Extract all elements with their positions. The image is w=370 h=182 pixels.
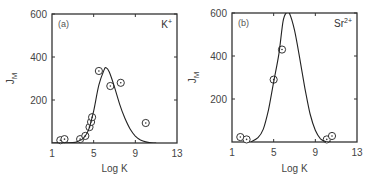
data-point-marker <box>142 119 149 126</box>
x-axis-title: Log K <box>101 163 127 174</box>
data-point-marker <box>95 67 102 74</box>
data-point-marker <box>243 136 250 143</box>
x-tick-label: 5 <box>91 148 97 159</box>
ion-label: K+ <box>161 18 172 30</box>
x-tick-label: 1 <box>229 147 235 158</box>
y-axis-title: JM <box>5 72 19 84</box>
x-tick-label: 1 <box>49 148 55 159</box>
panel-label: (b) <box>238 18 249 28</box>
fit-curve <box>251 11 331 142</box>
x-tick-label: 9 <box>313 147 319 158</box>
chart-panel-b: 15913200400600Log KJM(b)Sr2+ <box>187 8 363 174</box>
y-tick-label: 600 <box>210 8 227 19</box>
plot-frame <box>52 14 177 143</box>
chart-panel-a: 15913200400600Log KJM(a)K+ <box>5 9 183 174</box>
fit-curve <box>52 68 156 143</box>
chart-figure: 15913200400600Log KJM(a)K+15913200400600… <box>0 0 370 182</box>
panel-label: (a) <box>58 19 69 29</box>
ion-label: Sr2+ <box>334 17 352 29</box>
x-tick-label: 13 <box>171 148 183 159</box>
data-point-marker <box>328 132 335 139</box>
x-axis-title: Log K <box>281 163 307 174</box>
y-tick-label: 600 <box>30 9 47 20</box>
y-tick-label: 200 <box>30 95 47 106</box>
y-tick-label: 400 <box>210 51 227 62</box>
x-tick-label: 5 <box>271 147 277 158</box>
x-tick-label: 9 <box>133 148 139 159</box>
data-point-marker <box>117 79 124 86</box>
data-point-marker <box>61 136 68 143</box>
y-tick-label: 200 <box>210 94 227 105</box>
y-axis-title: JM <box>187 71 201 83</box>
y-tick-label: 400 <box>30 52 47 63</box>
x-tick-label: 13 <box>351 147 363 158</box>
